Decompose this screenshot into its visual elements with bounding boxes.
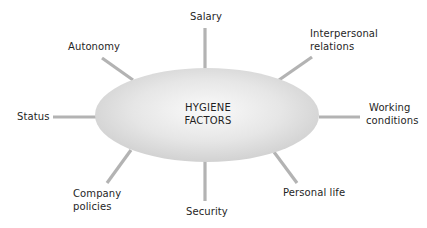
hub-label-line2: FACTORS [158,114,258,127]
factor-working-conditions-label-line2: conditions [366,114,418,127]
factor-status: Status [17,110,49,123]
factor-security: Security [186,205,228,218]
factor-company-policies: Company policies [73,187,121,213]
factor-company-policies-label-line1: Company [73,187,121,200]
factor-working-conditions: Working conditions [366,101,418,127]
factor-salary-label: Salary [190,10,222,23]
spoke-company-policies [107,150,131,183]
factor-company-policies-label-line2: policies [73,200,121,213]
spoke-interpersonal-relations [279,57,312,80]
factor-status-label: Status [17,110,49,123]
factor-interpersonal-relations-label-line2: relations [310,40,378,53]
factor-working-conditions-label-line1: Working [366,101,418,114]
factor-salary: Salary [190,10,222,23]
factor-interpersonal-relations-label-line1: Interpersonal [310,27,378,40]
factor-autonomy: Autonomy [68,40,120,53]
spoke-personal-life [274,152,297,183]
spoke-autonomy [102,58,133,80]
factor-personal-life: Personal life [283,186,345,199]
hub-label: HYGIENE FACTORS [158,101,258,127]
factor-interpersonal-relations: Interpersonal relations [310,27,378,53]
factor-personal-life-label: Personal life [283,186,345,199]
factor-security-label: Security [186,205,228,218]
factor-autonomy-label: Autonomy [68,40,120,53]
hub-label-line1: HYGIENE [158,101,258,114]
